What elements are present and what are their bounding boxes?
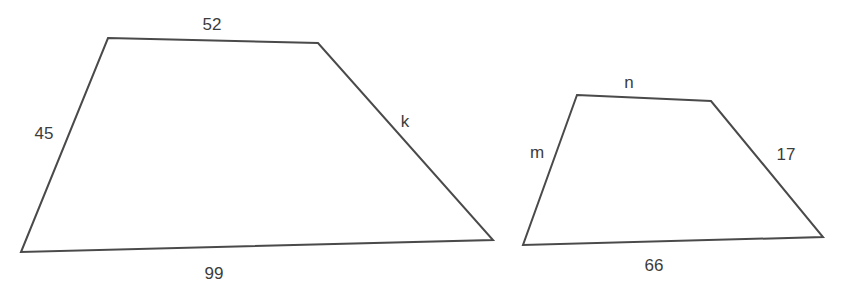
small-bottom-side-label: 66 <box>645 256 664 275</box>
small-right-side-label: 17 <box>777 145 796 164</box>
large-trapezoid: 52 45 k 99 <box>21 15 493 283</box>
small-left-side-label: m <box>530 143 544 162</box>
large-left-side-label: 45 <box>35 124 54 143</box>
small-trapezoid: n m 17 66 <box>523 73 823 275</box>
large-right-side-label: k <box>401 112 410 131</box>
similar-trapezoids-diagram: 52 45 k 99 n m 17 66 <box>0 0 844 296</box>
large-top-side-label: 52 <box>203 15 222 34</box>
large-bottom-side-label: 99 <box>205 264 224 283</box>
large-trapezoid-outline <box>21 38 493 252</box>
small-trapezoid-outline <box>523 95 823 245</box>
small-top-side-label: n <box>624 73 633 92</box>
